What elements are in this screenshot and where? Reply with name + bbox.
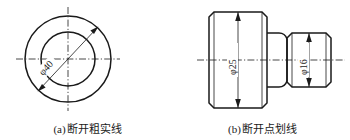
figure-sheet: φ40 (a)断开粗实线 <box>0 0 350 140</box>
small-dimension-arrowhead-bottom-b <box>306 78 312 87</box>
small-dimension-label-group-b: φ16 <box>298 43 309 77</box>
small-dimension-label-b: φ16 <box>298 59 309 75</box>
large-dimension-label-b: φ25 <box>227 59 238 75</box>
large-dimension-label-group-b: φ25 <box>227 43 238 77</box>
figure-panel-a: φ40 (a)断开粗实线 <box>0 0 175 140</box>
dimension-arrowhead-lower-left-a <box>38 84 46 91</box>
large-dimension-arrowhead-bottom-b <box>235 99 241 108</box>
figure-panel-b: φ25 φ16 (b)断开点划线 <box>175 0 350 140</box>
drawing-b-shaft-profile: φ25 φ16 <box>175 0 350 120</box>
figure-caption-b-text: 断开点划线 <box>242 123 297 135</box>
large-dimension-arrowhead-top-b <box>235 12 241 21</box>
figure-caption-b-tag: (b) <box>228 123 241 135</box>
drawing-a-circular-view: φ40 <box>0 0 175 120</box>
figure-caption-a-tag: (a) <box>53 123 65 135</box>
figure-caption-a-text: 断开粗实线 <box>67 123 122 135</box>
figure-caption-b: (b)断开点划线 <box>175 123 350 136</box>
small-dimension-arrowhead-top-b <box>306 33 312 42</box>
dimension-arrowhead-upper-right-a <box>90 27 98 34</box>
figure-caption-a: (a)断开粗实线 <box>0 123 175 136</box>
